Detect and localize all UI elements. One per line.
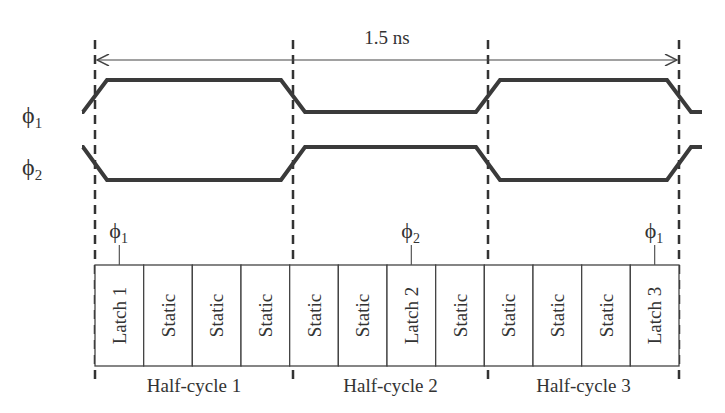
clock-tag: ϕ2 xyxy=(401,218,420,265)
phi2-label: ϕ2 xyxy=(22,154,42,183)
clock-tag: ϕ1 xyxy=(645,218,664,265)
static-cell: Static xyxy=(436,265,485,366)
latch-cell: Latch 1 xyxy=(95,265,144,366)
static-cell: Static xyxy=(338,265,387,366)
clock-tag-label: ϕ1 xyxy=(109,218,128,246)
cell-label: Static xyxy=(304,294,325,337)
latch-cell: Latch 3 xyxy=(630,265,679,366)
cell-label: Static xyxy=(450,294,471,337)
logic-cells: Latch 1StaticStaticStaticStaticStaticLat… xyxy=(95,265,679,366)
cell-label: Static xyxy=(547,294,568,337)
cell-label: Static xyxy=(255,294,276,337)
timing-diagram: 1.5 ns ϕ1 ϕ2 Latch 1StaticStaticStaticSt… xyxy=(0,0,725,413)
cell-label: Static xyxy=(596,294,617,337)
cell-label: Latch 3 xyxy=(644,287,665,345)
clock-tag-label: ϕ1 xyxy=(645,218,664,246)
static-cell: Static xyxy=(144,265,193,366)
static-cell: Static xyxy=(290,265,339,366)
clock-tag-label: ϕ2 xyxy=(401,218,420,246)
static-cell: Static xyxy=(192,265,241,366)
phi2-waveform xyxy=(82,147,702,180)
cell-label: Latch 1 xyxy=(109,287,130,345)
latch-clock-labels: ϕ1ϕ2ϕ1 xyxy=(109,218,663,265)
half-cycle-label: Half-cycle 2 xyxy=(343,375,437,396)
cell-label: Latch 2 xyxy=(401,287,422,345)
static-cell: Static xyxy=(582,265,631,366)
cell-label: Static xyxy=(206,294,227,337)
half-cycle-labels: Half-cycle 1Half-cycle 2Half-cycle 3 xyxy=(147,375,631,396)
svg-text:ϕ2: ϕ2 xyxy=(22,154,42,183)
svg-text:ϕ1: ϕ1 xyxy=(22,102,42,131)
half-cycle-label: Half-cycle 1 xyxy=(147,375,241,396)
cell-label: Static xyxy=(158,294,179,337)
cell-label: Static xyxy=(352,294,373,337)
period-label: 1.5 ns xyxy=(364,27,409,48)
latch-cell: Latch 2 xyxy=(387,265,436,366)
static-cell: Static xyxy=(241,265,290,366)
phi1-label: ϕ1 xyxy=(22,102,42,131)
static-cell: Static xyxy=(533,265,582,366)
static-cell: Static xyxy=(484,265,533,366)
clock-tag: ϕ1 xyxy=(109,218,128,265)
cell-label: Static xyxy=(498,294,519,337)
half-cycle-label: Half-cycle 3 xyxy=(536,375,630,396)
phi1-waveform xyxy=(82,80,702,112)
